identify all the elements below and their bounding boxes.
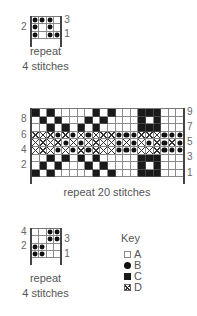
row-number-label: 1 (64, 249, 70, 259)
key-label: D (134, 282, 142, 293)
chart-cell (85, 132, 93, 140)
chart-cell (123, 162, 131, 170)
row-number-label: 3 (187, 152, 193, 162)
chart-cell (47, 244, 54, 251)
chart-cell (40, 117, 48, 125)
chart-cell (154, 132, 162, 140)
chart-cell (146, 139, 154, 147)
chart-cell (70, 170, 78, 178)
chart-cell (154, 117, 162, 125)
chart-cell (161, 109, 169, 117)
chart-cell (32, 132, 40, 140)
repeat-bracket-right (183, 108, 185, 184)
chart-cell (55, 124, 63, 132)
chart-cell (47, 229, 54, 236)
chart-cell (93, 139, 101, 147)
chart-cell (100, 147, 108, 155)
chart-cell (123, 117, 131, 125)
chart-grid (31, 228, 61, 258)
chart-cell (169, 139, 177, 147)
chart-cell (161, 117, 169, 125)
chart-cell (62, 170, 70, 178)
chart-cell (32, 109, 40, 117)
chart-cell (32, 147, 40, 155)
chart-cell (40, 139, 48, 147)
chart-cell (138, 109, 146, 117)
chart-cell (55, 170, 63, 178)
chart-cell (161, 162, 169, 170)
chart-cell (40, 162, 48, 170)
chart-cell (131, 155, 139, 163)
chart-cell (47, 109, 55, 117)
chart-cell (146, 132, 154, 140)
chart-cell (100, 162, 108, 170)
chart-cell (138, 124, 146, 132)
chart-cell (161, 139, 169, 147)
chart-cell (116, 139, 124, 147)
chart-cell (169, 124, 177, 132)
chart-cell (108, 147, 116, 155)
chart-cell (32, 229, 39, 236)
chart-cell (100, 170, 108, 178)
chart-cell (39, 244, 46, 251)
chart-cell (131, 109, 139, 117)
chart-cell (169, 147, 177, 155)
repeat-caption: repeat 20 stitches (30, 186, 184, 199)
chart-cell (78, 139, 86, 147)
chart-cell (40, 155, 48, 163)
chart-cell (62, 132, 70, 140)
chart-cell (40, 124, 48, 132)
filled-square-icon (124, 273, 131, 280)
crossed-square-icon (124, 284, 131, 291)
chart-cell (146, 124, 154, 132)
chart-cell (70, 139, 78, 147)
repeat-bracket-left (30, 228, 32, 265)
chart-cell (39, 17, 46, 24)
chart-cell (146, 147, 154, 155)
chart-cell (93, 124, 101, 132)
chart-cell (169, 132, 177, 140)
chart-cell (62, 124, 70, 132)
chart-cell (32, 251, 39, 258)
chart-cell (100, 117, 108, 125)
chart-cell (138, 170, 146, 178)
chart-cell (85, 109, 93, 117)
row-number-label: 1 (64, 29, 70, 39)
chart-cell (32, 24, 39, 31)
chart-cell (108, 109, 116, 117)
chart-cell (169, 162, 177, 170)
chart-cell (100, 155, 108, 163)
chart-cell (78, 124, 86, 132)
chart-cell (70, 162, 78, 170)
chart-cell (108, 170, 116, 178)
chart-cell (85, 155, 93, 163)
chart-cell (32, 139, 40, 147)
chart-cell (62, 162, 70, 170)
chart-cell (146, 155, 154, 163)
repeat-caption: repeat4 stitches (8, 272, 83, 300)
chart-cell (47, 139, 55, 147)
chart-cell (123, 155, 131, 163)
chart-cell (55, 139, 63, 147)
chart-cell (100, 109, 108, 117)
chart-cell (161, 147, 169, 155)
chart-cell (123, 124, 131, 132)
chart-grid (31, 108, 184, 177)
chart-cell (169, 170, 177, 178)
chart-cell (100, 132, 108, 140)
chart-cell (47, 117, 55, 125)
caption-line: repeat 20 stitches (30, 186, 184, 199)
chart-cell (100, 139, 108, 147)
chart-cell (47, 170, 55, 178)
chart-cell (108, 132, 116, 140)
chart-cell (78, 162, 86, 170)
chart-cell (47, 124, 55, 132)
chart-cell (32, 170, 40, 178)
chart-cell (78, 109, 86, 117)
chart-cell (32, 162, 40, 170)
chart-cell (62, 109, 70, 117)
repeat-caption: repeat4 stitches (8, 45, 83, 73)
chart-cell (154, 162, 162, 170)
chart-cell (55, 132, 63, 140)
chart-cell (32, 32, 39, 39)
